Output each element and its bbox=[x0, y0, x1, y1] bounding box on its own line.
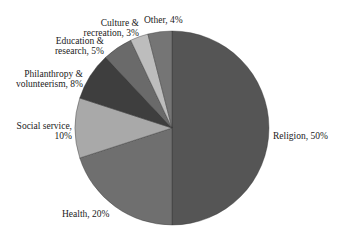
label-philanthropy: Philanthropy & volunteerism, 8% bbox=[10, 69, 83, 89]
label-philanthropy-line1: Philanthropy & bbox=[10, 69, 83, 79]
label-philanthropy-line2: volunteerism, 8% bbox=[10, 79, 83, 89]
label-culture-line2: recreation, 3% bbox=[80, 28, 139, 38]
label-health: Health, 20% bbox=[62, 209, 110, 219]
label-culture-line1: Culture & bbox=[80, 18, 139, 28]
label-social-service: Social service, 10% bbox=[10, 121, 72, 141]
label-education: Education & research, 5% bbox=[50, 36, 104, 56]
label-social-service-line1: Social service, bbox=[10, 121, 72, 131]
pie-slice-religion bbox=[172, 31, 269, 225]
label-social-service-line2: 10% bbox=[10, 131, 72, 141]
label-education-line2: research, 5% bbox=[50, 46, 104, 56]
label-culture: Culture & recreation, 3% bbox=[80, 18, 139, 38]
label-other: Other, 4% bbox=[144, 15, 183, 25]
label-religion: Religion, 50% bbox=[273, 131, 328, 141]
